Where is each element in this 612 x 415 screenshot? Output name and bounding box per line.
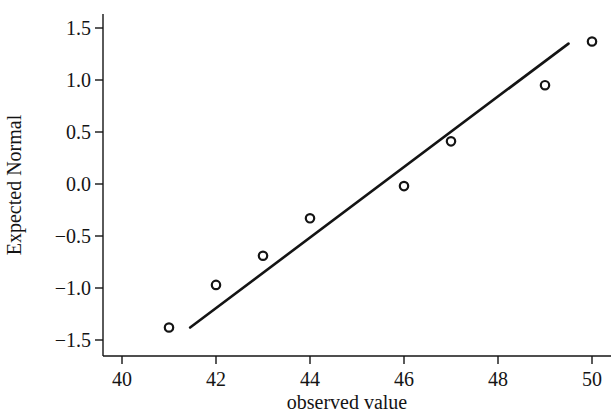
data-point	[400, 182, 408, 190]
data-point	[212, 281, 220, 289]
data-point	[447, 137, 455, 145]
data-point	[541, 81, 549, 89]
x-axis-title: observed value	[287, 392, 408, 412]
data-point	[588, 37, 596, 45]
y-tick-label: −1.0	[55, 278, 91, 298]
reference-line	[190, 44, 568, 328]
y-tick-label: 0.0	[66, 174, 91, 194]
x-tick-label: 40	[112, 369, 132, 389]
x-tick-label: 44	[300, 369, 320, 389]
y-tick-label: −1.5	[55, 330, 91, 350]
x-tick-label: 46	[394, 369, 414, 389]
y-tick-label: −0.5	[55, 226, 91, 246]
qq-plot-figure: 1.51.00.50.0−0.5−1.0−1.5 404244464850 Ex…	[0, 0, 612, 415]
x-tick-label: 42	[206, 369, 226, 389]
y-axis-ticks	[95, 28, 103, 340]
y-tick-label: 1.5	[66, 18, 91, 38]
reference-line-group	[190, 44, 568, 328]
data-point	[306, 214, 314, 222]
data-point	[259, 252, 267, 260]
x-axis-ticks	[122, 356, 592, 364]
axis-lines	[103, 14, 611, 356]
plot-canvas	[0, 0, 612, 415]
y-tick-label: 1.0	[66, 70, 91, 90]
x-tick-label: 48	[488, 369, 508, 389]
x-tick-label: 50	[582, 369, 602, 389]
y-tick-label: 0.5	[66, 122, 91, 142]
data-point	[165, 323, 173, 331]
y-axis-title: Expected Normal	[4, 115, 24, 256]
